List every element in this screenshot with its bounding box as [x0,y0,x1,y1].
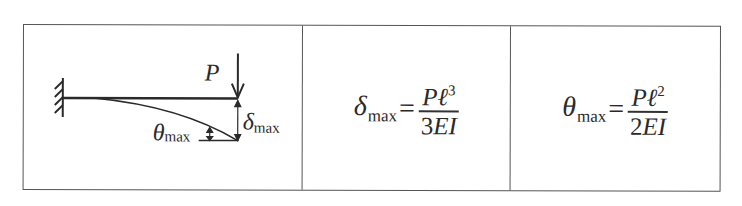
fixed-wall-icon [55,78,63,117]
numerator: Pℓ2 [630,78,667,111]
fraction: Pℓ2 2EI [628,78,668,140]
angle-formula: θmax = Pℓ2 2EI [511,78,720,140]
deflection-formula: δmax = Pℓ3 3EI [303,77,510,139]
angle-formula-cell: θmax = Pℓ2 2EI [511,26,720,191]
denominator: 2EI [628,112,668,139]
numerator: Pℓ3 [420,77,457,110]
beam-formula-table: P δmax θmax δmax = Pℓ3 3EI [23,24,721,192]
equals-sign: = [608,93,624,125]
formula-lhs: δmax [354,90,397,126]
denominator: 3EI [419,112,459,139]
formula-lhs: θmax [562,90,606,126]
angle-label: θmax [153,119,191,145]
cantilever-diagram: P δmax θmax [1,1,312,206]
deflection-dimension [199,100,241,140]
deflection-formula-cell: δmax = Pℓ3 3EI [303,26,511,191]
equals-sign: = [399,92,415,124]
load-arrow-icon [232,54,244,98]
deflection-label: δmax [243,109,281,136]
load-label: P [204,59,220,85]
diagram-cell: P δmax θmax [24,25,303,190]
fraction: Pℓ3 3EI [419,77,459,139]
angle-arc-icon [207,127,213,140]
